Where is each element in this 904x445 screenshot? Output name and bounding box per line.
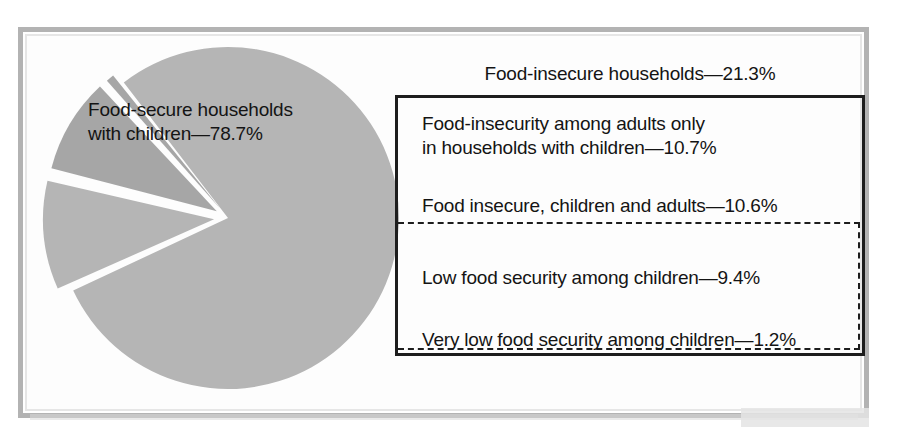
scan-artifact-line <box>30 414 858 420</box>
label-low-food-security-among-children: Low food security among children—9.4% <box>422 266 842 290</box>
label-food-insecure-children-and-adults: Food insecure, children and adults—10.6% <box>422 194 842 218</box>
label-food-insecure-households-total: Food-insecure households—21.3% <box>395 62 865 86</box>
chart-page: Food-secure households with children—78.… <box>0 0 904 445</box>
label-very-low-food-security-among-children: Very low food security among children—1.… <box>422 328 852 352</box>
label-food-insecurity-adults-only: Food-insecurity among adults only in hou… <box>422 112 822 161</box>
scan-artifact-band <box>741 408 869 427</box>
label-food-secure-households: Food-secure households with children—78.… <box>88 98 338 147</box>
